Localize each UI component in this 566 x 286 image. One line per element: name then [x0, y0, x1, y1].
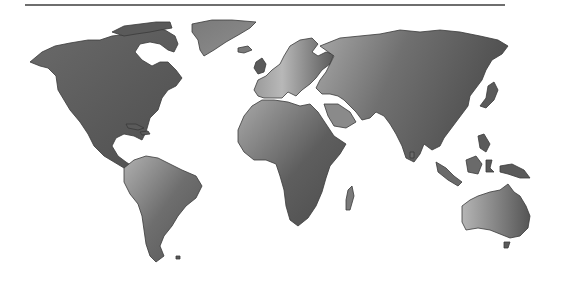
- region-philippines: [478, 134, 490, 152]
- region-indonesia: [436, 162, 462, 186]
- region-united-kingdom: [254, 58, 266, 74]
- region-borneo: [466, 156, 482, 174]
- region-north-america: [30, 28, 182, 168]
- world-map: [0, 0, 566, 286]
- region-falklands: [176, 256, 180, 259]
- region-caribbean-2: [140, 131, 150, 135]
- region-iceland: [238, 46, 252, 53]
- region-australia: [462, 184, 530, 238]
- region-sulawesi: [486, 160, 494, 172]
- region-south-america: [124, 156, 202, 262]
- region-new-guinea: [500, 164, 530, 178]
- region-sri-lanka: [410, 152, 414, 158]
- region-japan: [480, 82, 498, 108]
- region-madagascar: [346, 186, 354, 210]
- region-tasmania: [504, 242, 510, 248]
